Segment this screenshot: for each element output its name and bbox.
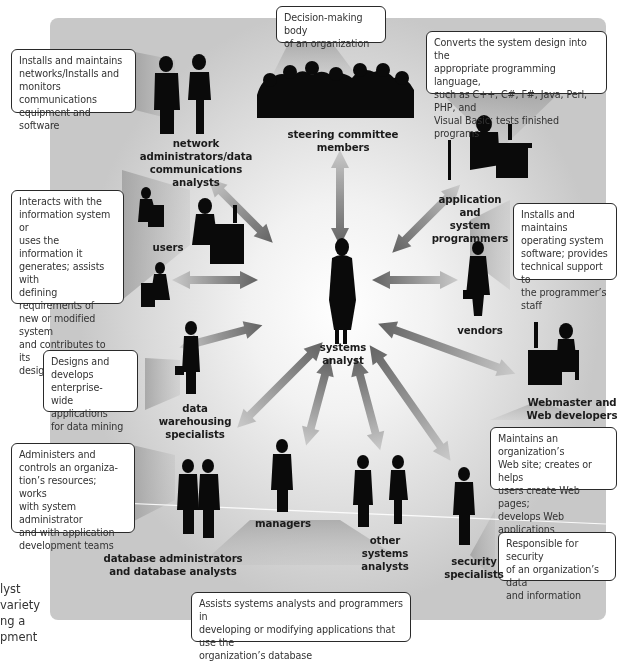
label-line: and database analysts <box>98 565 248 578</box>
callout-users: Interacts with the information system or… <box>11 190 124 304</box>
callout-line: Maintains an organization’s <box>498 432 609 458</box>
label-line: Webmaster and <box>522 396 622 409</box>
callout-security: Responsible for security of an organizat… <box>498 532 616 581</box>
label-other-analysts: other systems analysts <box>340 534 430 573</box>
callout-line: Decision-making body <box>284 11 378 37</box>
callout-line: Web site; creates or helps <box>498 458 609 484</box>
callout-programmers: Converts the system design into the appr… <box>426 31 607 94</box>
callout-line: developing or modifying applications tha… <box>199 623 403 649</box>
label-line: users <box>148 241 188 254</box>
callout-line: and information <box>506 589 608 602</box>
callout-steering-committee: Decision-making body of an organization <box>276 6 386 43</box>
label-line: communications <box>116 163 276 176</box>
steering-committee-figure <box>257 61 414 118</box>
label-line: specialists <box>434 568 514 581</box>
label-dba: database administrators and database ana… <box>98 552 248 578</box>
security-figure <box>453 467 475 545</box>
callout-line: new or modified system <box>19 312 116 338</box>
callout-line: wide applications <box>51 394 130 420</box>
label-vendors: vendors <box>455 324 505 337</box>
callout-line: networks/Installs and <box>19 67 128 80</box>
label-line: warehousing <box>155 415 235 428</box>
label-line: data <box>155 402 235 415</box>
label-webmaster: Webmaster and Web developers <box>522 396 622 422</box>
callout-line: of an organization’s data <box>506 563 608 589</box>
label-line: specialists <box>155 428 235 441</box>
caption-line: lyst <box>0 581 40 597</box>
callout-line: software; provides <box>521 247 609 260</box>
callout-line: for data mining <box>51 420 130 433</box>
callout-line: Administers and <box>19 448 127 461</box>
data-warehousing-figure <box>175 321 200 394</box>
callout-line: monitors communications <box>19 80 128 106</box>
callout-line: information system or <box>19 208 116 234</box>
callout-line: Assists systems analysts and programmers… <box>199 597 403 623</box>
callout-line: technical support to <box>521 260 609 286</box>
dba-figure <box>177 459 220 538</box>
side-caption: lyst variety ng a pment <box>0 581 40 645</box>
callout-line: defining requirements of <box>19 286 116 312</box>
label-line: steering committee members <box>268 128 418 154</box>
callout-line: Responsible for security <box>506 537 608 563</box>
label-managers: managers <box>248 517 318 530</box>
callout-webmaster: Maintains an organization’s Web site; cr… <box>490 427 617 490</box>
label-line: system <box>430 219 510 232</box>
callout-line: operating system <box>521 234 609 247</box>
label-systems-analyst: systems analyst <box>318 341 368 367</box>
callout-line: equipment and software <box>19 106 128 132</box>
callout-line: develops enterprise- <box>51 368 130 394</box>
label-programmers: application and system programmers <box>430 193 510 245</box>
callout-line: of an organization <box>284 37 378 50</box>
callout-line: such as C++, C#, F#, Java, Perl, PHP, an… <box>434 88 599 114</box>
label-data-warehousing: data warehousing specialists <box>155 402 235 441</box>
callout-line: organization’s database <box>199 649 403 662</box>
caption-line: ng a <box>0 613 40 629</box>
callout-line: Visual Basic; tests finished programs <box>434 114 599 140</box>
callout-data-warehousing: Designs and develops enterprise- wide ap… <box>43 350 138 412</box>
callout-network-admins: Installs and maintains networks/Installs… <box>11 49 136 113</box>
label-line: systems <box>318 341 368 354</box>
systems-analyst-figure <box>329 238 356 344</box>
callout-line: users create Web pages; <box>498 484 609 510</box>
callout-line: development teams <box>19 539 127 552</box>
label-steering-committee: steering committee members <box>268 128 418 154</box>
managers-figure <box>271 439 293 512</box>
caption-line: pment <box>0 629 40 645</box>
callout-line: Converts the system design into the <box>434 36 599 62</box>
label-line: Web developers <box>522 409 622 422</box>
webmaster-figure <box>528 322 579 385</box>
label-line: application and <box>430 193 510 219</box>
callout-line: with system administrator <box>19 500 127 526</box>
label-line: programmers <box>430 232 510 245</box>
callout-line: and with application <box>19 526 127 539</box>
label-security: security specialists <box>434 555 514 581</box>
callout-line: generates; assists with <box>19 260 116 286</box>
label-line: network administrators/data <box>116 137 276 163</box>
callout-line: Installs and maintains <box>19 54 128 67</box>
vendors-figure <box>463 241 490 316</box>
label-line: analysts <box>116 176 276 189</box>
callout-line: Installs and maintains <box>521 208 609 234</box>
label-line: managers <box>248 517 318 530</box>
callout-line: appropriate programming language, <box>434 62 599 88</box>
label-line: analyst <box>318 354 368 367</box>
label-line: vendors <box>455 324 505 337</box>
callout-line: tion’s resources; works <box>19 474 127 500</box>
label-line: systems analysts <box>340 547 430 573</box>
callout-line: controls an organiza- <box>19 461 127 474</box>
network-admins-figure <box>154 54 211 134</box>
label-line: database administrators <box>98 552 248 565</box>
callout-line: uses the information it <box>19 234 116 260</box>
label-network-admins: network administrators/data communicatio… <box>116 137 276 189</box>
callout-line: the programmer’s staff <box>521 286 609 312</box>
callout-line: Designs and <box>51 355 130 368</box>
other-analysts-figure <box>353 455 408 527</box>
callout-dba: Administers and controls an organiza- ti… <box>11 443 135 533</box>
callout-system-programmers: Installs and maintains operating system … <box>513 203 617 280</box>
label-line: security <box>434 555 514 568</box>
label-line: other <box>340 534 430 547</box>
callout-database-analysts: Assists systems analysts and programmers… <box>191 592 411 642</box>
callout-line: Interacts with the <box>19 195 116 208</box>
label-users: users <box>148 241 188 254</box>
caption-line: variety <box>0 597 40 613</box>
